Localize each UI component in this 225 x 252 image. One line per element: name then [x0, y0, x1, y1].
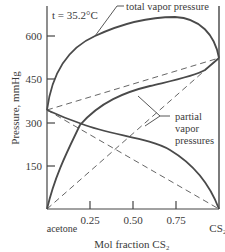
ideal-total-line — [47, 58, 219, 110]
y-tick-label: 450 — [26, 73, 43, 85]
total-vapor-pressure-curve — [47, 17, 219, 110]
x-tick-label: 0.50 — [123, 214, 143, 226]
partial-label-line2: vapor — [175, 123, 199, 134]
partial-label-line3: pressures — [175, 135, 214, 146]
y-tick-label: 300 — [26, 117, 43, 129]
partial-leader-line-1 — [138, 96, 170, 116]
partial-label-line1: partial — [175, 111, 202, 122]
vapor-pressure-chart: 600 450 300 150 0.25 0.50 0.75 acetone C… — [0, 0, 225, 252]
y-tick-label: 600 — [26, 30, 43, 42]
temperature-annotation: t = 35.2°C — [52, 9, 98, 21]
total-vapor-pressure-label: total vapor pressure — [126, 1, 209, 12]
x-end-label-cs2: CS₂ — [209, 222, 225, 234]
y-axis-title: Pressure, mmHg — [9, 71, 21, 145]
y-tick-label: 150 — [26, 160, 43, 172]
x-tick-label: 0.25 — [80, 214, 100, 226]
x-axis-title: Mol fraction CS₂ — [94, 238, 169, 250]
x-end-label-acetone: acetone — [47, 223, 78, 234]
x-tick-label: 0.75 — [166, 214, 186, 226]
x-ticks — [90, 201, 176, 209]
